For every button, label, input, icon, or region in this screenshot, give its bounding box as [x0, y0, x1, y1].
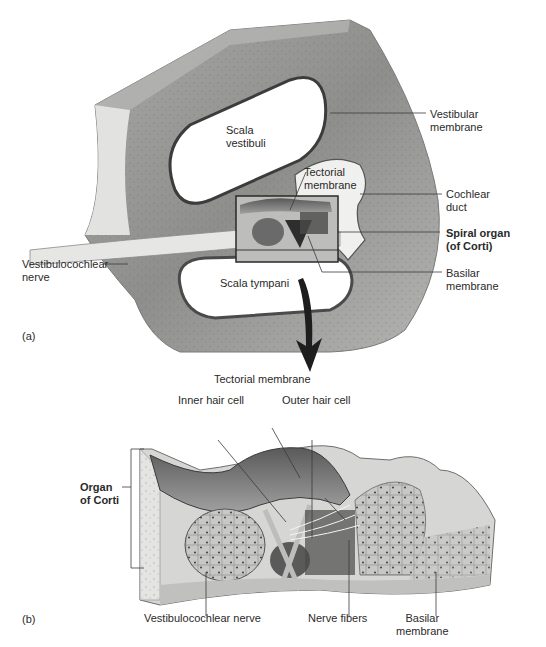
- label-vestibulocochlear-nerve-a: Vestibulocochlear nerve: [22, 258, 108, 284]
- label-tectorial-membrane-a: Tectorial membrane: [304, 166, 357, 192]
- label-tectorial-membrane-b: Tectorial membrane: [214, 373, 311, 386]
- label-scala-vestibuli: Scala vestibuli: [226, 124, 266, 150]
- label-scala-tympani: Scala tympani: [220, 277, 289, 290]
- panel-b-illustration: [122, 428, 495, 616]
- cochlea-figure: Scala vestibuli Vestibular membrane Tect…: [0, 0, 546, 647]
- inner-cell-cluster: [185, 509, 265, 581]
- label-nerve-fibers: Nerve fibers: [308, 612, 367, 625]
- panel-a-marker: (a): [22, 330, 35, 343]
- label-vestibular-membrane: Vestibular membrane: [430, 108, 483, 134]
- panel-b-marker: (b): [22, 613, 35, 626]
- anatomy-illustration: [0, 0, 546, 647]
- label-cochlear-duct: Cochlear duct: [446, 188, 490, 214]
- label-basilar-membrane-a: Basilar membrane: [446, 267, 499, 293]
- label-basilar-membrane-b: Basilar membrane: [396, 612, 449, 638]
- label-spiral-organ: Spiral organ (of Corti): [446, 227, 510, 253]
- label-organ-of-corti: Organ of Corti: [80, 481, 119, 507]
- label-inner-hair-cell: Inner hair cell: [178, 394, 244, 407]
- panel-a-illustration: [30, 20, 442, 372]
- label-outer-hair-cell: Outer hair cell: [282, 394, 350, 407]
- spiral-organ-inset: [236, 196, 338, 262]
- label-vestibulocochlear-nerve-b: Vestibulocochlear nerve: [144, 612, 261, 625]
